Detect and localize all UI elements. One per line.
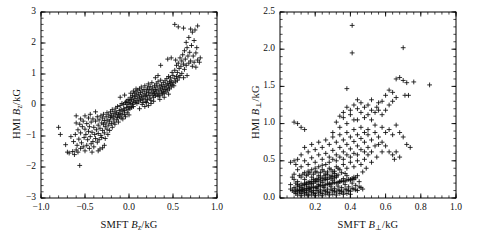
tick-label-y: 0.5 bbox=[242, 154, 275, 164]
panel-left-bz: HMI Bz/kG SMFT Bz/kG −3−2−10123−1.0−0.50… bbox=[0, 0, 238, 246]
tick-label-y: 2 bbox=[3, 37, 36, 47]
tick-label-y: 0 bbox=[3, 99, 36, 109]
tick-label-x: 0.2 bbox=[295, 202, 335, 212]
tick-label-y: −2 bbox=[3, 161, 36, 171]
tick-label-y: −1 bbox=[3, 130, 36, 140]
tick-label-y: 2.5 bbox=[242, 6, 275, 16]
tick-label-x: 0.0 bbox=[109, 202, 149, 212]
tick-label-y: 1.0 bbox=[242, 117, 275, 127]
tick-label-x: 0.4 bbox=[330, 202, 370, 212]
right-y-axis-label: HMI B⊥/kG bbox=[250, 85, 263, 139]
right-x-axis-label: SMFT B⊥/kG bbox=[280, 219, 456, 232]
tick-label-x: 1.0 bbox=[197, 202, 237, 212]
tick-label-x: −0.5 bbox=[65, 202, 105, 212]
tick-label-y: 1.5 bbox=[242, 80, 275, 90]
figure-scatter-comparison: HMI Bz/kG SMFT Bz/kG −3−2−10123−1.0−0.50… bbox=[0, 0, 477, 246]
panel-right-bperp: HMI B⊥/kG SMFT B⊥/kG 0.00.51.01.52.02.50… bbox=[238, 0, 477, 246]
tick-label-y: 0.0 bbox=[242, 192, 275, 202]
tick-label-x: 0.8 bbox=[401, 202, 441, 212]
left-x-axis-label: SMFT Bz/kG bbox=[41, 219, 217, 232]
tick-label-x: 0.5 bbox=[153, 202, 193, 212]
tick-label-y: 1 bbox=[3, 68, 36, 78]
tick-label-x: 0.6 bbox=[366, 202, 406, 212]
tick-label-x: −1.0 bbox=[21, 202, 61, 212]
tick-label-x: 1.0 bbox=[436, 202, 476, 212]
tick-label-y: −3 bbox=[3, 192, 36, 202]
tick-label-y: 3 bbox=[3, 6, 36, 16]
tick-label-y: 2.0 bbox=[242, 43, 275, 53]
